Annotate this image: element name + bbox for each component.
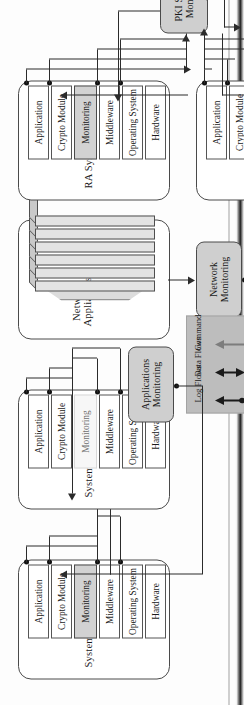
appliance-slab [35, 280, 155, 291]
layer-monitoring[interactable]: Monitoring [74, 564, 97, 638]
layer-application[interactable]: Application [28, 394, 49, 468]
log-flow-line [26, 68, 186, 69]
log-flow-line [49, 59, 50, 83]
log-flow-line [97, 515, 120, 516]
log-flow-line [168, 279, 190, 280]
pki-monitoring-diagram: System B Application Crypto Module Monit… [0, 0, 244, 705]
legend-arrow-glyphs [211, 316, 244, 412]
monitor-line-1: Applications [140, 358, 151, 409]
command-line [110, 573, 202, 574]
log-flow-line [26, 378, 27, 392]
flow-legend: Log FlowsData FlowsCommand [186, 315, 244, 413]
layer-middleware[interactable]: Middleware [99, 564, 120, 638]
layer-middleware[interactable]: Middleware [99, 394, 120, 468]
command-line [118, 10, 160, 11]
layer-crypto-module[interactable]: Crypto Module [51, 394, 72, 468]
command-line [66, 573, 111, 574]
monitor-label: PKI SystemsMonitoring [173, 0, 195, 21]
layer-application[interactable]: Application [206, 85, 227, 159]
log-flow-line [26, 377, 73, 378]
arrow-head-left [68, 493, 76, 500]
appliance-slab [35, 215, 155, 226]
log-flow-line [120, 516, 121, 562]
log-flow-line [204, 58, 235, 59]
legend-label-command: Command [193, 314, 203, 350]
monitor-line-1: PKI Systems [173, 0, 184, 21]
log-flow-line [97, 49, 98, 83]
layer-monitoring[interactable]: Monitoring [74, 85, 97, 159]
command-line [222, 33, 223, 95]
layer-monitoring[interactable]: Monitoring [74, 394, 97, 468]
operator-link-line [224, 0, 225, 27]
appliance-slab [35, 228, 155, 239]
system-box-ca-system[interactable]: CA System Application Crypto Module Moni… [196, 80, 244, 200]
system-box-network-appliances[interactable]: Network Appliances [18, 219, 170, 339]
log-flow-line [26, 69, 27, 83]
command-line [202, 385, 203, 574]
log-flow-line [97, 358, 98, 392]
monitor-line-2: Monitoring [184, 0, 195, 18]
appliance-slab [35, 241, 155, 252]
log-flow-line [26, 546, 27, 562]
arrow-head-right [182, 34, 190, 41]
log-flow-line [204, 48, 244, 49]
log-flow-line [120, 348, 121, 392]
monitor-label: Applications Monitoring [140, 358, 162, 409]
arrow-head-down [234, 23, 241, 31]
log-flow-line [26, 545, 98, 546]
command-line [66, 94, 188, 95]
layer-application[interactable]: Application [28, 85, 49, 159]
arrow-head-up [60, 91, 67, 99]
log-flow-line [49, 535, 98, 536]
log-flow-line [204, 38, 244, 39]
system-box-ra-system[interactable]: RA System Application Crypto Module Moni… [18, 80, 170, 200]
monitor-line-2: Monitoring [219, 256, 230, 302]
layer-hardware[interactable]: Hardware [145, 85, 166, 159]
log-flow-line [72, 357, 97, 358]
command-line [118, 11, 119, 95]
log-flow-line [49, 536, 50, 562]
monitor-box-applications-monitoring[interactable]: Applications Monitoring [128, 346, 174, 422]
appliance-slab [35, 267, 155, 278]
log-flow-bus [204, 33, 205, 69]
layer-application[interactable]: Application [28, 564, 49, 638]
arrow-head-right [200, 28, 208, 35]
log-flow-line [120, 38, 186, 39]
arrow-head-down [188, 276, 195, 284]
monitor-box-network-monitoring[interactable]: Network Monitoring [196, 241, 242, 317]
system-box-system-b[interactable]: System B Application Crypto Module Monit… [18, 559, 170, 679]
layer-crypto-module[interactable]: Crypto Module [229, 85, 244, 159]
arrow-head-up [60, 570, 67, 578]
arrow-head-left [114, 94, 122, 101]
log-flow-line [120, 39, 121, 83]
command-line [222, 94, 244, 95]
arrow-head-down [184, 65, 191, 73]
layer-operating-system[interactable]: Operating System [122, 85, 143, 159]
log-flow-bus [72, 348, 73, 493]
appliance-slab [35, 254, 155, 265]
monitor-line-1: Network [208, 262, 219, 297]
log-flow-line [49, 367, 73, 368]
log-flow-bus [186, 39, 187, 69]
junction-dot [242, 277, 244, 282]
layer-hardware[interactable]: Hardware [145, 564, 166, 638]
log-flow-line [97, 48, 186, 49]
monitor-label: Network Monitoring [208, 256, 230, 302]
log-flow-line [49, 368, 50, 392]
scanned-page: System B Application Crypto Module Monit… [0, 0, 244, 705]
monitor-line-2: Monitoring [151, 361, 162, 407]
log-flow-line [204, 69, 205, 83]
log-flow-line [72, 347, 120, 348]
layer-operating-system[interactable]: Operating System [122, 564, 143, 638]
command-line [176, 385, 202, 386]
log-flow-line [227, 59, 228, 83]
